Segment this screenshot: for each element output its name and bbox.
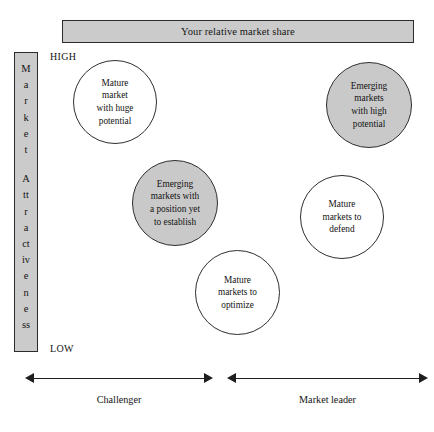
- axis-label-char: e: [15, 268, 37, 284]
- axis-high-label: HIGH: [50, 51, 76, 62]
- axis-label-char: a: [15, 220, 37, 236]
- bubble-mature-markets-to-optimize[interactable]: Mature markets to optimize: [195, 250, 280, 335]
- axis-label-char: a: [15, 77, 37, 93]
- axis-label-char: r: [15, 93, 37, 109]
- market-leader-range-arrow: [227, 373, 428, 384]
- axis-label-char: n: [15, 285, 37, 301]
- axis-low-label: LOW: [50, 343, 74, 354]
- bubble-label: Emerging markets with high potential: [345, 80, 394, 130]
- market-share-header-bar: Your relative market share: [62, 20, 414, 43]
- arrow-head-right-icon: [204, 373, 213, 383]
- axis-label-char: ct: [15, 236, 37, 252]
- bubble-emerging-markets-position-yet-to-establish[interactable]: Emerging markets with a position yet to …: [132, 160, 218, 246]
- axis-label-gap: [15, 158, 37, 171]
- arrow-head-right-icon: [419, 373, 428, 383]
- axis-label-char: iv: [15, 252, 37, 268]
- market-attractiveness-axis-box: MarketAttractiveness: [14, 52, 38, 352]
- axis-label-char: tt: [15, 187, 37, 203]
- market-share-header-label: Your relative market share: [181, 26, 295, 37]
- challenger-caption: Challenger: [25, 394, 213, 405]
- bubble-label: Mature market with huge potential: [91, 77, 140, 127]
- axis-label-char: k: [15, 110, 37, 126]
- market-attractiveness-matrix: Your relative market share MarketAttract…: [0, 0, 434, 432]
- axis-label-char: t: [15, 142, 37, 158]
- arrow-shaft: [31, 378, 207, 379]
- arrow-shaft: [233, 378, 422, 379]
- bubble-label: Mature markets to defend: [317, 198, 368, 236]
- axis-label-char: e: [15, 301, 37, 317]
- axis-label-char: ss: [15, 317, 37, 333]
- axis-label-char: A: [15, 171, 37, 187]
- bubble-label: Emerging markets with a position yet to …: [144, 178, 206, 228]
- market-leader-caption: Market leader: [227, 394, 428, 405]
- bubble-label: Mature markets to optimize: [212, 274, 263, 312]
- axis-label-char: M: [15, 61, 37, 77]
- bubble-mature-markets-to-defend[interactable]: Mature markets to defend: [300, 175, 384, 259]
- challenger-range-arrow: [25, 373, 213, 384]
- bubble-mature-market-huge-potential[interactable]: Mature market with huge potential: [73, 60, 157, 144]
- axis-label-char: e: [15, 126, 37, 142]
- bubble-emerging-markets-high-potential[interactable]: Emerging markets with high potential: [326, 62, 412, 148]
- axis-label-char: r: [15, 204, 37, 220]
